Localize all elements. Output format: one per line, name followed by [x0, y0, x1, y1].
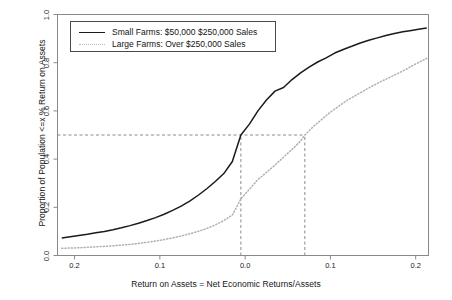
series-line-0 [62, 28, 427, 238]
x-tick-label-0: 0.2 [69, 261, 79, 270]
y-tick-label-3: 0.6 [42, 106, 51, 116]
legend-label-large-farms: Large Farms: Over $250,000 Sales [112, 39, 245, 49]
reference-lines [58, 135, 305, 256]
y-tick-label-1: 0.2 [42, 202, 51, 212]
y-tick-label-0: 0.0 [42, 250, 51, 260]
x-axis-title: Return on Assets = Net Economic Returns/… [0, 279, 452, 289]
y-axis-title: Proportion of Population <=x % Return on… [37, 13, 47, 253]
x-tick-label-1: 0.1 [155, 261, 165, 270]
series-line-1 [62, 58, 427, 248]
y-axis-title-wrapper: Proportion of Population <=x % Return on… [37, 13, 51, 253]
chart-figure: Small Farms: $50,000 $250,000 Sales Larg… [0, 0, 452, 300]
legend-line-sample-dotted [79, 39, 105, 49]
x-tick-label-3: 0.1 [325, 261, 335, 270]
legend-line-sample-solid [79, 27, 105, 37]
x-tick-label-4: 0.2 [410, 261, 420, 270]
x-tick-label-2: 0.0 [240, 261, 250, 270]
legend-entry-large-farms: Large Farms: Over $250,000 Sales [71, 37, 275, 50]
y-axis-ticks [54, 15, 58, 256]
legend-label-small-farms: Small Farms: $50,000 $250,000 Sales [112, 27, 257, 37]
data-series-layer [62, 28, 427, 248]
chart-legend: Small Farms: $50,000 $250,000 Sales Larg… [70, 21, 276, 52]
x-axis-ticks [75, 256, 416, 260]
y-tick-label-4: 0.8 [42, 57, 51, 67]
y-tick-label-5: 1.0 [42, 9, 51, 19]
y-tick-label-2: 0.4 [42, 154, 51, 164]
